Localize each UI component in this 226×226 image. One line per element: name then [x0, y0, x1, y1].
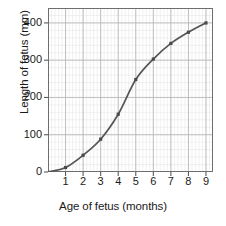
y-tick-label: 100 — [16, 129, 42, 140]
y-tick-label: 300 — [16, 54, 42, 65]
x-tick-label: 9 — [199, 176, 213, 187]
x-tick-label: 8 — [181, 176, 195, 187]
y-tick-label: 200 — [16, 91, 42, 102]
y-axis-tick-labels: 0100200300400 — [16, 0, 42, 226]
y-tick-label: 400 — [16, 17, 42, 28]
x-axis-title: Age of fetus (months) — [0, 200, 226, 212]
x-tick-label: 6 — [146, 176, 160, 187]
x-tick-label: 5 — [129, 176, 143, 187]
x-tick-label: 2 — [76, 176, 90, 187]
x-tick-label: 7 — [164, 176, 178, 187]
x-tick-label: 4 — [111, 176, 125, 187]
fetal-growth-line-chart: Length of fetus (mm) 0100200300400 12345… — [0, 0, 226, 226]
x-tick-label: 3 — [94, 176, 108, 187]
plot-svg — [48, 8, 213, 172]
x-tick-label: 1 — [59, 176, 73, 187]
x-axis-tick-labels: 123456789 — [0, 176, 226, 190]
plot-area — [48, 8, 213, 172]
